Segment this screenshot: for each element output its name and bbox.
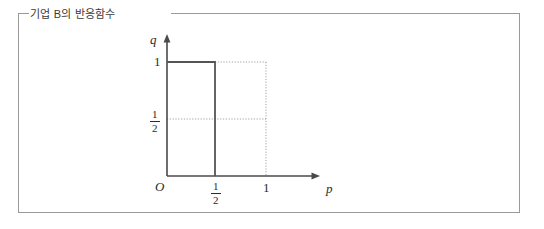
x-tick-label-1: 1: [263, 181, 270, 194]
fraction-numerator: 1: [211, 181, 221, 193]
fraction-one-half-x: 1 2: [211, 181, 221, 206]
x-axis-label: p: [326, 182, 333, 195]
y-tick-label-1: 1: [154, 55, 161, 68]
fraction-denominator: 2: [150, 123, 160, 135]
fraction-one-half-y: 1 2: [150, 109, 160, 134]
page-title: 기업 B의 반응함수: [30, 5, 115, 21]
fraction-denominator: 2: [211, 195, 221, 207]
y-axis-label: q: [150, 33, 157, 46]
origin-label: O: [155, 180, 164, 193]
x-tick-label-one-half: 1 2: [211, 181, 221, 206]
fraction-numerator: 1: [150, 109, 160, 121]
y-tick-label-one-half: 1 2: [150, 109, 160, 134]
